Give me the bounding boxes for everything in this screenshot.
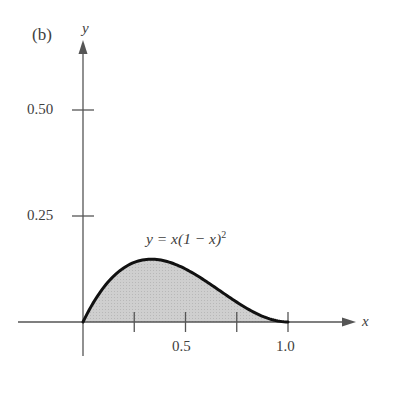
x-tick-label-0.5: 0.5 — [172, 338, 191, 355]
y-tick-label-0.50: 0.50 — [27, 101, 53, 118]
panel-label: (b) — [32, 25, 52, 45]
chart-plot — [0, 0, 397, 396]
equation-lhs: y = x — [146, 230, 178, 247]
equation-label: y = x(1 − x)2 — [146, 229, 226, 248]
x-axis-label: x — [362, 313, 369, 330]
y-axis-arrow-icon — [79, 40, 88, 54]
y-axis-label: y — [82, 20, 89, 37]
equation-rest: (1 − x) — [178, 230, 221, 247]
x-axis-arrow-icon — [342, 318, 356, 327]
x-tick-label-1.0: 1.0 — [276, 338, 295, 355]
equation-exponent: 2 — [221, 229, 226, 240]
y-tick-label-0.25: 0.25 — [27, 207, 53, 224]
